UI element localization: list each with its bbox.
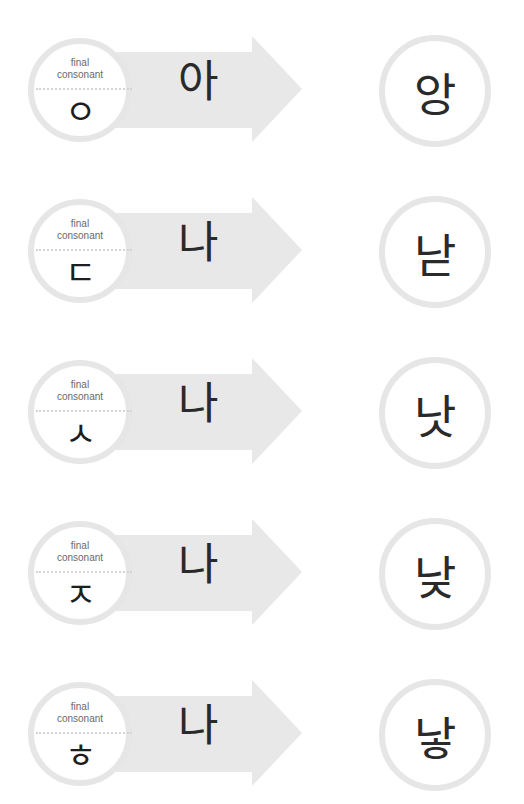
label-line-1: final — [34, 540, 126, 552]
result-syllable: 낫 — [385, 363, 485, 463]
final-consonant: ㅇ — [34, 92, 126, 132]
label-line-2: consonant — [34, 391, 126, 403]
base-syllable: 나 — [158, 700, 238, 752]
final-consonant-circle: final consonant ㅅ — [28, 360, 132, 464]
final-consonant: ㄷ — [34, 253, 126, 293]
label-line-2: consonant — [34, 230, 126, 242]
label-line-1: final — [34, 57, 126, 69]
result-circle: 앙 — [379, 35, 491, 147]
row-ieung: final consonant ㅇ 아 앙 — [0, 30, 524, 150]
final-consonant-circle: final consonant ㄷ — [28, 199, 132, 303]
result-circle: 낫 — [379, 357, 491, 469]
final-consonant-label: final consonant — [34, 701, 126, 725]
dotted-divider — [36, 88, 132, 90]
row-digeut: final consonant ㄷ 나 낟 — [0, 191, 524, 311]
final-consonant: ㅎ — [34, 736, 126, 776]
final-consonant-label: final consonant — [34, 218, 126, 242]
label-line-1: final — [34, 218, 126, 230]
final-consonant-label: final consonant — [34, 379, 126, 403]
final-consonant-label: final consonant — [34, 540, 126, 564]
row-siot: final consonant ㅅ 나 낫 — [0, 352, 524, 472]
base-syllable: 나 — [158, 378, 238, 430]
result-circle: 낳 — [379, 679, 491, 791]
result-syllable: 낳 — [385, 685, 485, 785]
dotted-divider — [36, 732, 132, 734]
final-consonant-circle: final consonant ㅇ — [28, 38, 132, 142]
result-syllable: 낟 — [385, 202, 485, 302]
result-circle: 낮 — [379, 518, 491, 630]
label-line-2: consonant — [34, 552, 126, 564]
dotted-divider — [36, 571, 132, 573]
row-jieut: final consonant ㅈ 나 낮 — [0, 513, 524, 633]
row-hieut: final consonant ㅎ 나 낳 — [0, 674, 524, 794]
result-circle: 낟 — [379, 196, 491, 308]
label-line-1: final — [34, 379, 126, 391]
label-line-2: consonant — [34, 69, 126, 81]
label-line-1: final — [34, 701, 126, 713]
dotted-divider — [36, 410, 132, 412]
base-syllable: 아 — [158, 56, 238, 108]
final-consonant-circle: final consonant ㅎ — [28, 682, 132, 786]
base-syllable: 나 — [158, 539, 238, 591]
label-line-2: consonant — [34, 713, 126, 725]
final-consonant: ㅅ — [34, 414, 126, 454]
dotted-divider — [36, 249, 132, 251]
final-consonant-circle: final consonant ㅈ — [28, 521, 132, 625]
result-syllable: 앙 — [385, 41, 485, 141]
result-syllable: 낮 — [385, 524, 485, 624]
final-consonant: ㅈ — [34, 575, 126, 615]
base-syllable: 나 — [158, 217, 238, 269]
final-consonant-label: final consonant — [34, 57, 126, 81]
